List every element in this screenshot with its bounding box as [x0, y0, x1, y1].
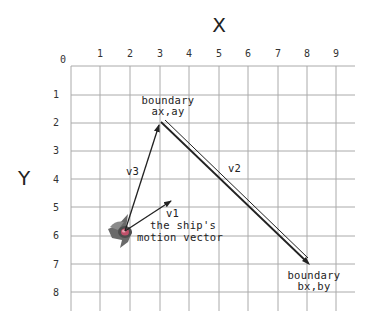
x-tick: 9 — [333, 48, 339, 59]
y-tick: 4 — [53, 174, 59, 185]
y-tick: 2 — [53, 117, 59, 128]
y-tick-labels: 1 2 3 4 5 6 7 8 — [53, 89, 59, 298]
v1-description-line2: motion vector — [137, 231, 223, 243]
x-tick-labels: 1 2 3 4 5 6 7 8 9 — [97, 48, 339, 59]
y-tick: 3 — [53, 145, 59, 156]
boundary-a-line2: ax,ay — [151, 105, 184, 117]
vector-diagram: X Y 0 1 2 3 4 5 6 7 8 9 1 2 3 4 5 6 7 8 — [0, 0, 379, 327]
y-tick: 6 — [53, 230, 59, 241]
v3-label: v3 — [126, 165, 139, 177]
boundary-b-line2: bx,by — [297, 280, 330, 292]
x-tick: 2 — [127, 48, 133, 59]
y-tick: 7 — [53, 259, 59, 270]
origin-label: 0 — [60, 54, 66, 65]
vector-v2 — [161, 120, 310, 265]
v1-description-line1: the ship's — [150, 219, 216, 231]
y-axis-title: Y — [17, 166, 31, 190]
v1-label: v1 — [166, 207, 179, 219]
v2-label: v2 — [228, 162, 241, 174]
y-tick: 1 — [53, 89, 59, 100]
x-tick: 1 — [97, 48, 103, 59]
x-tick: 5 — [216, 48, 222, 59]
x-axis-title: X — [212, 13, 226, 37]
y-tick: 5 — [53, 202, 59, 213]
y-tick: 8 — [53, 287, 59, 298]
x-tick: 7 — [275, 48, 281, 59]
x-tick: 8 — [304, 48, 310, 59]
x-tick: 4 — [186, 48, 192, 59]
x-tick: 3 — [157, 48, 163, 59]
x-tick: 6 — [245, 48, 251, 59]
